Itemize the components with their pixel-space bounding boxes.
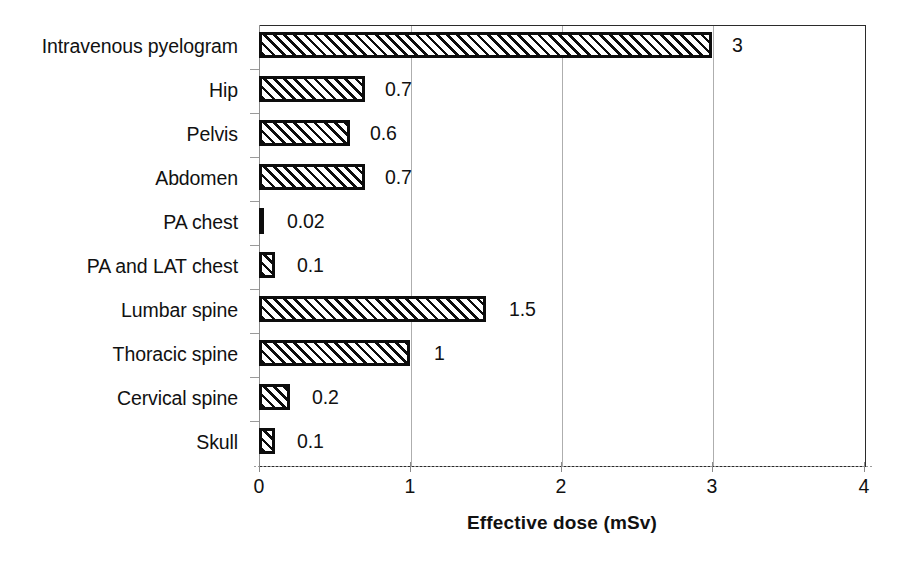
category-label: PA chest: [0, 213, 238, 233]
y-axis-tick: [250, 157, 259, 158]
x-axis-tick-label: 3: [707, 477, 718, 497]
bars-layer: 3 0.7 0.6 0.7 0.02 0.1 1.5 1: [259, 25, 866, 467]
category-label: Hip: [0, 81, 238, 101]
bar: [259, 384, 290, 410]
bar: [259, 208, 264, 234]
bar: [259, 428, 275, 454]
bar: [259, 76, 365, 102]
bar-value-label: 0.02: [287, 212, 325, 232]
x-axis-tick-label: 1: [405, 477, 416, 497]
category-label: Thoracic spine: [0, 345, 238, 365]
category-label: Abdomen: [0, 169, 238, 189]
x-axis-tick-label: 4: [859, 477, 870, 497]
x-axis-tick: [561, 462, 562, 472]
y-axis-tick: [250, 421, 259, 422]
bar: [259, 252, 275, 278]
category-label: Cervical spine: [0, 389, 238, 409]
bar-value-label: 0.7: [385, 168, 412, 188]
category-label: PA and LAT chest: [0, 257, 238, 277]
y-axis-tick: [250, 245, 259, 246]
bar: [259, 296, 486, 322]
bar-value-label: 0.1: [297, 256, 324, 276]
bar-chart: Intravenous pyelogram Hip Pelvis Abdomen…: [0, 0, 898, 567]
x-axis-title: Effective dose (mSv): [467, 512, 657, 534]
category-axis-labels: Intravenous pyelogram Hip Pelvis Abdomen…: [0, 25, 238, 467]
bar: [259, 32, 712, 58]
bar-value-label: 3: [732, 36, 743, 56]
bar-value-label: 0.2: [312, 388, 339, 408]
bar: [259, 120, 350, 146]
category-label: Intravenous pyelogram: [0, 37, 238, 57]
bar-value-label: 0.7: [385, 80, 412, 100]
bar-value-label: 1: [434, 344, 445, 364]
x-axis-tick-label: 2: [556, 477, 567, 497]
y-axis-tick: [250, 333, 259, 334]
y-axis-tick: [250, 201, 259, 202]
category-label: Pelvis: [0, 125, 238, 145]
category-label: Lumbar spine: [0, 301, 238, 321]
y-axis-tick: [250, 289, 259, 290]
x-axis-tick: [259, 462, 260, 472]
bar-value-label: 0.6: [370, 124, 397, 144]
x-axis-tick: [864, 462, 865, 472]
bar-value-label: 1.5: [509, 300, 536, 320]
x-axis-tick: [712, 462, 713, 472]
y-axis-tick: [250, 113, 259, 114]
x-axis-line: [254, 466, 872, 467]
x-axis-tick-label: 0: [254, 477, 265, 497]
y-axis-tick: [250, 377, 259, 378]
y-axis-tick: [250, 69, 259, 70]
bar: [259, 340, 410, 366]
bar: [259, 164, 365, 190]
bar-value-label: 0.1: [297, 432, 324, 452]
category-label: Skull: [0, 433, 238, 453]
x-axis-tick: [410, 462, 411, 472]
